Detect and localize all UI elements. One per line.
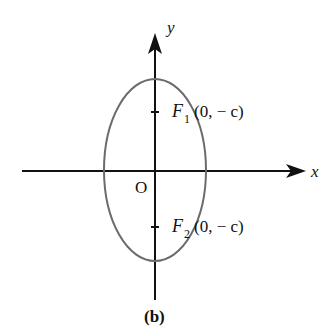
origin-label: O [135,178,147,197]
focus-2-coords: (0, − c) [194,217,244,236]
x-axis-label: x [310,162,319,181]
focus-2-subscript: 2 [184,227,190,241]
y-axis-label: y [165,18,175,37]
ellipse-diagram: y x O F 1 (0, − c) F 2 (0, − c) (b) [0,0,333,333]
focus-1-coords: (0, − c) [194,102,244,121]
focus-1-subscript: 1 [184,112,190,126]
focus-1-name: F [171,101,184,121]
figure-caption: (b) [144,307,165,326]
focus-2-name: F [171,216,184,236]
